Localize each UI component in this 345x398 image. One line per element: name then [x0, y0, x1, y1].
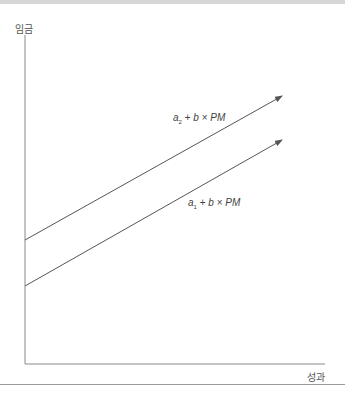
x-axis-label: 성과: [307, 369, 325, 384]
bottom-rule: [0, 384, 345, 385]
a2-equation-label: a2 + b × PM: [173, 112, 225, 125]
a1-line: [25, 140, 282, 286]
y-axis-label: 임금: [15, 21, 33, 36]
a1-equation-label: a1 + b × PM: [188, 197, 240, 210]
a2-line: [25, 96, 282, 240]
wage-performance-diagram: [0, 0, 345, 398]
